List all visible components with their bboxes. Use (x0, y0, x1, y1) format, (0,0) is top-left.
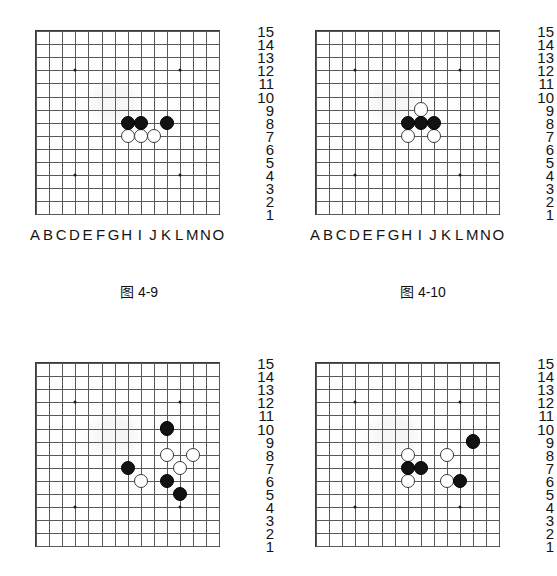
grid-line-vertical (434, 363, 435, 546)
star-point (354, 69, 357, 72)
row-labels: 151413121110987654321 (248, 362, 274, 545)
column-label: J (426, 227, 440, 242)
column-label: D (67, 227, 81, 242)
white-stone[interactable] (440, 448, 454, 462)
black-stone[interactable] (401, 461, 415, 475)
column-label: C (334, 227, 348, 242)
grid-line-vertical (486, 31, 487, 214)
grid-line-vertical (460, 363, 461, 546)
grid-line-vertical (486, 363, 487, 546)
black-stone[interactable] (121, 461, 135, 475)
grid-line-horizontal (36, 188, 219, 189)
grid-line-horizontal (36, 201, 219, 202)
column-label: A (308, 227, 322, 242)
grid-line-horizontal (36, 533, 219, 534)
grid-line-horizontal (36, 175, 219, 176)
black-stone[interactable] (160, 474, 174, 488)
column-label: D (347, 227, 361, 242)
star-point (354, 174, 357, 177)
star-point (74, 69, 77, 72)
star-point (459, 69, 462, 72)
star-point (459, 174, 462, 177)
grid-line-vertical (219, 31, 220, 214)
grid-line-vertical (206, 31, 207, 214)
row-label: 1 (266, 539, 274, 554)
grid-line-vertical (473, 363, 474, 546)
white-stone[interactable] (173, 461, 187, 475)
black-stone[interactable] (134, 116, 148, 130)
black-stone[interactable] (401, 116, 415, 130)
grid-line-vertical (154, 31, 155, 214)
black-stone[interactable] (427, 116, 441, 130)
black-stone[interactable] (160, 116, 174, 130)
grid-line-horizontal (36, 149, 219, 150)
grid-line-vertical (473, 31, 474, 214)
grid-line-vertical (421, 363, 422, 546)
white-stone[interactable] (134, 129, 148, 143)
go-board (315, 362, 500, 547)
white-stone[interactable] (186, 448, 200, 462)
row-labels: 151413121110987654321 (528, 30, 554, 213)
grid-line-vertical (193, 31, 194, 214)
column-label: I (413, 227, 427, 242)
white-stone[interactable] (160, 448, 174, 462)
black-stone[interactable] (173, 487, 187, 501)
grid-line-horizontal (316, 494, 499, 495)
grid-line-horizontal (36, 507, 219, 508)
column-label: B (321, 227, 335, 242)
grid-line-horizontal (316, 546, 499, 547)
black-stone[interactable] (453, 474, 467, 488)
column-label: H (120, 227, 134, 242)
star-point (179, 174, 182, 177)
column-label: F (94, 227, 108, 242)
white-stone[interactable] (134, 474, 148, 488)
grid-line-vertical (154, 363, 155, 546)
white-stone[interactable] (414, 102, 428, 116)
row-label: 1 (266, 207, 274, 222)
page-root: 151413121110987654321ABCDEFGHIJKLMNO图 4-… (0, 0, 557, 576)
column-label: E (80, 227, 94, 242)
column-label: C (54, 227, 68, 242)
star-point (179, 401, 182, 404)
star-point (179, 506, 182, 509)
row-label: 1 (546, 207, 554, 222)
grid-line-horizontal (316, 175, 499, 176)
grid-line-vertical (180, 363, 181, 546)
white-stone[interactable] (401, 474, 415, 488)
black-stone[interactable] (466, 434, 480, 448)
go-board (35, 362, 220, 547)
column-label: F (374, 227, 388, 242)
column-label: O (491, 227, 505, 242)
row-label: 1 (546, 539, 554, 554)
white-stone[interactable] (427, 129, 441, 143)
column-label: L (172, 227, 186, 242)
column-label: E (360, 227, 374, 242)
column-label: I (133, 227, 147, 242)
star-point (354, 401, 357, 404)
column-label: G (107, 227, 121, 242)
star-point (459, 401, 462, 404)
column-label: A (28, 227, 42, 242)
column-label: G (387, 227, 401, 242)
grid-line-vertical (128, 363, 129, 546)
black-stone[interactable] (121, 116, 135, 130)
grid-line-horizontal (316, 214, 499, 215)
white-stone[interactable] (121, 129, 135, 143)
white-stone[interactable] (401, 448, 415, 462)
grid-line-vertical (180, 31, 181, 214)
black-stone[interactable] (414, 116, 428, 130)
star-point (74, 401, 77, 404)
column-label: K (159, 227, 173, 242)
white-stone[interactable] (401, 129, 415, 143)
white-stone[interactable] (147, 129, 161, 143)
grid-line-vertical (219, 363, 220, 546)
black-stone[interactable] (414, 461, 428, 475)
column-label: L (452, 227, 466, 242)
grid-line-horizontal (36, 214, 219, 215)
grid-line-vertical (141, 363, 142, 546)
grid-line-horizontal (36, 494, 219, 495)
grid-line-horizontal (36, 546, 219, 547)
black-stone[interactable] (160, 421, 174, 435)
column-label: M (465, 227, 479, 242)
star-point (459, 506, 462, 509)
